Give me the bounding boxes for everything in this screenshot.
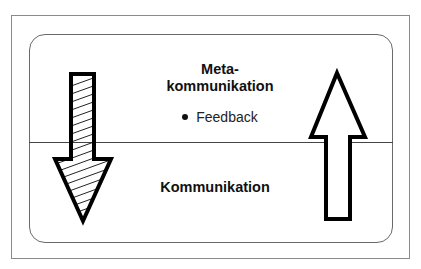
- up-arrow-icon: [311, 73, 365, 219]
- kommunikation-label: Kommunikation: [140, 179, 290, 196]
- meta-title-line1: Meta-: [150, 61, 290, 78]
- meta-title-line2: kommunikation: [150, 78, 290, 95]
- bullet-item-feedback: Feedback: [150, 109, 290, 125]
- bullet-icon: [182, 114, 188, 120]
- arrows-layer: [0, 0, 421, 269]
- metakommunikation-label: Meta- kommunikation: [150, 61, 290, 95]
- down-arrow-icon: [50, 72, 116, 222]
- bullet-text: Feedback: [196, 109, 257, 125]
